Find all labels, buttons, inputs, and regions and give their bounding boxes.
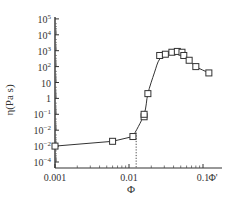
data-point-square [186,57,192,63]
y-tick-label: 10−2 [34,140,52,152]
y-tick-label: 103 [38,45,52,57]
y-axis-label: η(Pa s) [3,84,16,115]
data-point-square [162,51,168,57]
y-tick-label: 10−1 [34,108,52,120]
data-point-square [130,134,136,140]
x-axis-label: Φ [127,183,135,195]
axes [55,17,222,168]
data-points [52,48,212,149]
y-tick-label: 10−2 [34,124,52,136]
y-tick-label: 1 [46,93,51,104]
y-tick-label: 10 [41,78,51,89]
x-tick-label: 0.01 [120,172,138,183]
data-point-square [141,111,147,117]
x-tick-label: 0.1 [197,172,210,183]
data-point-square [110,138,116,144]
data-point-square [193,64,199,70]
viscosity-vs-volume-fraction-chart: 10510410310210110−110−210−210−4 0.0010.0… [0,0,230,201]
data-point-square [52,143,58,149]
y-tick-label: 105 [38,13,52,25]
data-point-square [145,91,151,97]
x-tick-label: 0.001 [44,172,67,183]
data-point-square [157,52,163,58]
y-tick-label: 104 [38,29,52,41]
x-axis-ticks: 0.0010.010.1Φ' [44,164,218,183]
y-tick-label: 102 [38,61,52,73]
x-tick-label: Φ' [208,172,217,183]
data-point-square [206,70,212,76]
y-tick-label: 10−4 [34,156,52,168]
fit-line [55,137,133,147]
fit-lines [55,51,211,146]
